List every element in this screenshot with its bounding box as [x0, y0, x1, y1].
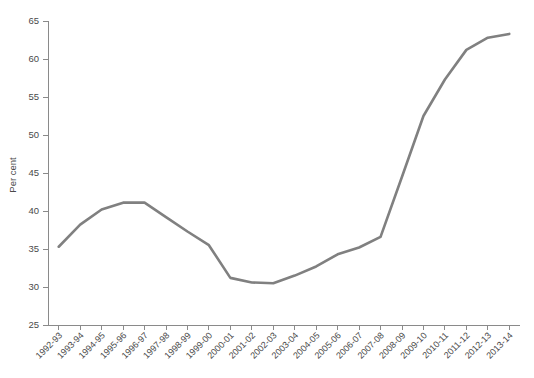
- x-axis: 1992-931993-941994-951995-961996-971997-…: [34, 325, 520, 361]
- y-tick-label: 40: [28, 205, 39, 216]
- y-tick-label: 60: [28, 53, 39, 64]
- y-axis: 253035404550556065 Per cent: [7, 15, 48, 330]
- series-line-per-cent: [59, 34, 510, 283]
- series-group: [59, 34, 510, 283]
- y-tick-label: 30: [28, 281, 39, 292]
- y-tick-label: 65: [28, 15, 39, 26]
- y-tick-label: 45: [28, 167, 39, 178]
- x-axis-ticks: 1992-931993-941994-951995-961996-971997-…: [34, 325, 515, 361]
- y-axis-ticks: 253035404550556065: [28, 15, 48, 330]
- y-tick-label: 35: [28, 243, 39, 254]
- y-tick-label: 55: [28, 91, 39, 102]
- y-tick-label: 50: [28, 129, 39, 140]
- line-chart: 253035404550556065 Per cent 1992-931993-…: [0, 0, 534, 378]
- y-axis-title: Per cent: [7, 157, 18, 193]
- y-tick-label: 25: [28, 319, 39, 330]
- chart-canvas: 253035404550556065 Per cent 1992-931993-…: [0, 0, 534, 378]
